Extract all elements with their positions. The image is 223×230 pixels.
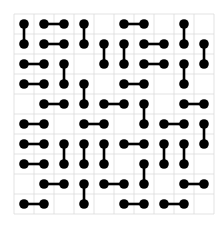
domino-dot xyxy=(139,199,149,209)
domino-dot xyxy=(19,199,29,209)
domino-dot xyxy=(139,119,149,129)
domino-dot xyxy=(159,59,169,69)
domino-dot xyxy=(79,19,89,29)
domino-dot xyxy=(59,99,69,109)
grid-cell[interactable] xyxy=(94,194,114,214)
grid-cell[interactable] xyxy=(54,194,74,214)
puzzle-board[interactable] xyxy=(0,0,223,230)
domino-dot xyxy=(199,99,209,109)
domino-dot xyxy=(119,179,129,189)
domino-dot xyxy=(179,79,189,89)
domino-dot xyxy=(59,139,69,149)
domino-dot xyxy=(19,139,29,149)
grid-cell[interactable] xyxy=(114,114,134,134)
domino-dot xyxy=(139,99,149,109)
domino-dot xyxy=(199,39,209,49)
domino-dot xyxy=(179,199,189,209)
domino-dot xyxy=(199,139,209,149)
domino-dot xyxy=(39,159,49,169)
domino-dot xyxy=(39,139,49,149)
domino-dot xyxy=(59,159,69,169)
grid-cell[interactable] xyxy=(154,74,174,94)
domino-dot xyxy=(79,139,89,149)
grid-cell[interactable] xyxy=(14,174,34,194)
domino-dot xyxy=(159,199,169,209)
domino-dot xyxy=(39,19,49,29)
domino-dot xyxy=(159,159,169,169)
domino-dot xyxy=(199,179,209,189)
domino-dot xyxy=(19,119,29,129)
domino-dot xyxy=(119,59,129,69)
grid-cell[interactable] xyxy=(194,74,214,94)
domino-dot xyxy=(139,139,149,149)
domino-dot xyxy=(39,79,49,89)
domino-dot xyxy=(19,39,29,49)
domino-dot xyxy=(179,179,189,189)
domino-dot xyxy=(139,39,149,49)
domino-dot xyxy=(119,39,129,49)
grid-cell[interactable] xyxy=(14,94,34,114)
domino-dot xyxy=(139,79,149,89)
domino-dot xyxy=(39,179,49,189)
domino-dot xyxy=(79,119,89,129)
domino-dot xyxy=(119,199,129,209)
domino-dot xyxy=(159,139,169,149)
domino-dot xyxy=(19,159,29,169)
domino-dot xyxy=(179,59,189,69)
domino-dot xyxy=(79,179,89,189)
domino-dot xyxy=(119,19,129,29)
domino-dot xyxy=(39,199,49,209)
domino-dot xyxy=(19,59,29,69)
grid-cell[interactable] xyxy=(74,54,94,74)
domino-dot xyxy=(79,159,89,169)
domino-dot xyxy=(159,39,169,49)
domino-dot xyxy=(99,179,109,189)
domino-dot xyxy=(79,99,89,109)
domino-dot xyxy=(179,119,189,129)
grid-cell[interactable] xyxy=(194,154,214,174)
grid-cell[interactable] xyxy=(154,174,174,194)
domino-dot xyxy=(179,139,189,149)
domino-dot xyxy=(139,19,149,29)
domino-dot xyxy=(19,19,29,29)
grid-cell[interactable] xyxy=(154,94,174,114)
domino-dot xyxy=(79,199,89,209)
domino-dot xyxy=(39,119,49,129)
domino-dot xyxy=(199,59,209,69)
domino-dot xyxy=(99,59,109,69)
domino-dot xyxy=(99,99,109,109)
domino-dot xyxy=(99,119,109,129)
domino-dot xyxy=(139,179,149,189)
domino-dot xyxy=(59,79,69,89)
domino-dot xyxy=(139,159,149,169)
domino-dot xyxy=(179,99,189,109)
domino-dot xyxy=(19,79,29,89)
domino-dot xyxy=(119,79,129,89)
grid-cell[interactable] xyxy=(154,14,174,34)
domino-dot xyxy=(59,59,69,69)
grid-cell[interactable] xyxy=(94,14,114,34)
domino-dot xyxy=(59,39,69,49)
grid-cell[interactable] xyxy=(54,114,74,134)
domino-dot xyxy=(179,159,189,169)
domino-dot xyxy=(39,59,49,69)
domino-dot xyxy=(59,179,69,189)
domino-dot xyxy=(99,39,109,49)
domino-dot xyxy=(179,39,189,49)
domino-dot xyxy=(39,39,49,49)
domino-dot xyxy=(99,139,109,149)
domino-dot xyxy=(139,59,149,69)
domino-dot xyxy=(59,19,69,29)
domino-dot xyxy=(39,99,49,109)
domino-dot xyxy=(119,99,129,109)
domino-dot xyxy=(159,119,169,129)
grid-cell[interactable] xyxy=(94,74,114,94)
domino-dot xyxy=(199,119,209,129)
grid-cell[interactable] xyxy=(194,14,214,34)
domino-dot xyxy=(99,159,109,169)
domino-dot xyxy=(79,39,89,49)
grid-cell[interactable] xyxy=(114,154,134,174)
domino-dot xyxy=(179,19,189,29)
domino-dot xyxy=(119,139,129,149)
grid-cell[interactable] xyxy=(194,194,214,214)
